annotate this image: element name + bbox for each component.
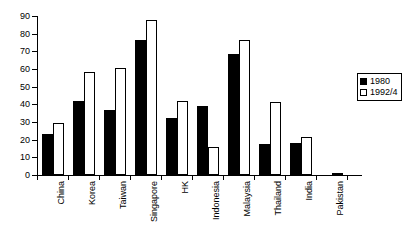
- legend-label-1992-4: 1992/4: [370, 88, 398, 97]
- bar-thailand-1980: [259, 144, 270, 175]
- x-tick-7: [254, 176, 255, 180]
- bar-india-1992-4: [301, 137, 312, 175]
- bar-malaysia-1992-4: [239, 40, 250, 175]
- bar-thailand-1992-4: [270, 102, 281, 175]
- x-tick-3: [130, 176, 131, 180]
- x-tick-5: [192, 176, 193, 180]
- x-label-hk: HK: [181, 181, 190, 194]
- bar-hk-1980: [166, 118, 177, 175]
- bar-chart: 0102030405060708090 ChinaKoreaTaiwanSing…: [0, 0, 414, 234]
- x-tick-9: [316, 176, 317, 180]
- y-tick-label-30: 30: [10, 118, 30, 127]
- bar-malaysia-1980: [228, 54, 239, 175]
- x-tick-1: [68, 176, 69, 180]
- legend-swatch-1980: [360, 78, 367, 85]
- x-label-china: China: [57, 181, 66, 205]
- y-tick-label-20: 20: [10, 136, 30, 145]
- bar-korea-1992-4: [84, 72, 95, 175]
- bar-singapore-1980: [135, 40, 146, 175]
- y-tick-label-60: 60: [10, 65, 30, 74]
- bar-indonesia-1980: [197, 106, 208, 175]
- y-tick-label-70: 70: [10, 47, 30, 56]
- legend-item-1992-4: 1992/4: [360, 87, 398, 98]
- legend-label-1980: 1980: [370, 77, 390, 86]
- bar-indonesia-1992-4: [208, 147, 219, 175]
- x-label-taiwan: Taiwan: [119, 181, 128, 209]
- bar-taiwan-1992-4: [115, 68, 126, 175]
- plot-area: [37, 16, 347, 175]
- chart-legend: 1980 1992/4: [357, 73, 402, 101]
- x-tick-4: [161, 176, 162, 180]
- x-tick-2: [99, 176, 100, 180]
- x-tick-0: [37, 176, 38, 180]
- x-label-singapore: Singapore: [150, 181, 159, 222]
- legend-item-1980: 1980: [360, 76, 398, 87]
- x-label-thailand: Thailand: [274, 181, 283, 216]
- y-tick-label-10: 10: [10, 153, 30, 162]
- x-axis-line: [37, 175, 362, 176]
- bar-singapore-1992-4: [146, 20, 157, 175]
- y-tick-label-40: 40: [10, 100, 30, 109]
- bar-pakistan-1992-4: [332, 173, 343, 175]
- x-label-pakistan: Pakistan: [336, 181, 345, 216]
- bar-hk-1992-4: [177, 101, 188, 175]
- legend-swatch-1992-4: [360, 89, 367, 96]
- x-label-malaysia: Malaysia: [243, 181, 252, 217]
- bar-india-1980: [290, 143, 301, 175]
- x-tick-6: [223, 176, 224, 180]
- x-tick-end: [347, 176, 348, 180]
- bar-china-1992-4: [53, 123, 64, 175]
- y-tick-label-90: 90: [10, 12, 30, 21]
- x-label-indonesia: Indonesia: [212, 181, 221, 220]
- bar-korea-1980: [73, 101, 84, 175]
- bar-china-1980: [42, 134, 53, 175]
- y-tick-label-80: 80: [10, 30, 30, 39]
- x-label-india: India: [305, 181, 314, 201]
- y-tick-label-50: 50: [10, 83, 30, 92]
- bar-taiwan-1980: [104, 110, 115, 175]
- x-tick-8: [285, 176, 286, 180]
- x-label-korea: Korea: [88, 181, 97, 205]
- y-tick-label-0: 0: [10, 171, 30, 180]
